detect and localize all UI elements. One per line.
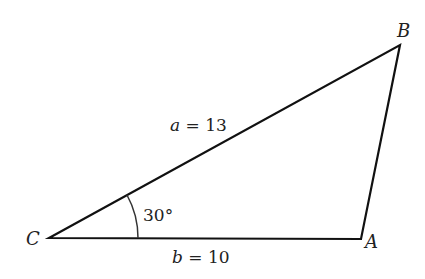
- side-a-eq: =: [186, 115, 200, 135]
- side-a-var: a: [170, 115, 180, 135]
- vertex-label-c: C: [26, 230, 40, 248]
- triangle-shape: [0, 0, 425, 279]
- side-a-value: 13: [205, 115, 227, 135]
- triangle-outline: [49, 45, 400, 239]
- vertex-label-a: A: [365, 233, 378, 251]
- side-a-label: a = 13: [170, 117, 227, 134]
- side-b-eq: =: [188, 247, 202, 267]
- side-b-var: b: [172, 247, 183, 267]
- vertex-label-b: B: [397, 22, 410, 40]
- triangle-figure: C B A a = 13 30° b = 10: [0, 0, 425, 279]
- angle-arc: [127, 195, 138, 238]
- angle-c-label: 30°: [143, 207, 173, 224]
- side-b-value: 10: [208, 247, 230, 267]
- side-b-label: b = 10: [172, 249, 230, 266]
